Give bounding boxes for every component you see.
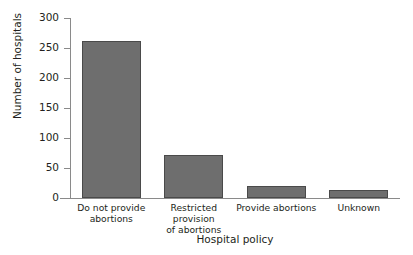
- y-axis-tick-label: 300: [0, 11, 59, 24]
- bar: [82, 41, 141, 198]
- x-axis-category-label: Provide abortions: [235, 202, 318, 213]
- x-axis-title: Hospital policy: [70, 233, 400, 245]
- y-axis-tick-label: 200: [0, 71, 59, 84]
- chart-title: [0, 0, 413, 3]
- y-axis-tick-label: 150: [0, 101, 59, 114]
- x-axis-category-label-line: abortions: [70, 213, 153, 224]
- bar: [329, 190, 388, 198]
- bar-chart-figure: Number of hospitals 050100150200250300 D…: [0, 0, 413, 255]
- y-axis-tick-label: 0: [0, 191, 59, 204]
- y-axis-tick-label: 50: [0, 161, 59, 174]
- plot-area: [70, 18, 400, 198]
- x-axis-category-label: Restricted provisionof abortions: [153, 202, 236, 235]
- bar: [164, 155, 223, 198]
- bar: [247, 186, 306, 198]
- x-axis-category-label: Do not provideabortions: [70, 202, 153, 224]
- x-axis-category-label-line: Restricted provision: [153, 202, 236, 224]
- x-axis-line: [60, 198, 400, 199]
- y-axis-tick-label: 100: [0, 131, 59, 144]
- x-axis-category-label-line: Unknown: [318, 202, 401, 213]
- y-axis-tick-label: 250: [0, 41, 59, 54]
- x-axis-category-label-line: Do not provide: [70, 202, 153, 213]
- x-axis-category-label-line: Provide abortions: [235, 202, 318, 213]
- x-axis-category-label: Unknown: [318, 202, 401, 213]
